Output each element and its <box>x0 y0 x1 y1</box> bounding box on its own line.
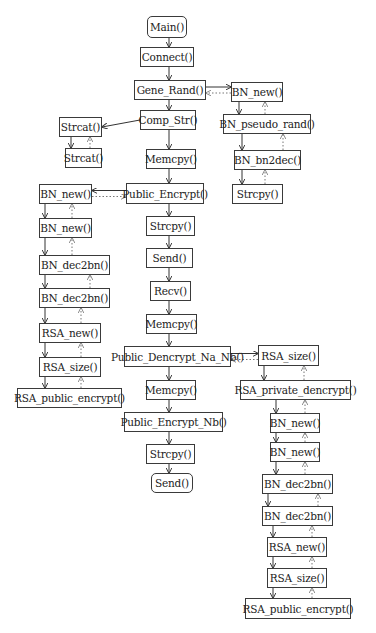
node-main: Main() <box>147 16 187 38</box>
node-bn-new-l2: BN_new() <box>39 218 92 238</box>
node-bn-new-r1: BN_new() <box>231 82 283 102</box>
node-rsa-new-l: RSA_new() <box>39 323 101 343</box>
node-rsa-size-r2: RSA_size() <box>267 568 327 588</box>
node-send-1: Send() <box>146 248 193 268</box>
node-strcpy-1: Strcpy() <box>146 216 195 236</box>
node-bn-bn2dec: BN_bn2dec() <box>234 150 301 170</box>
node-bn-new-r2: BN_new() <box>270 413 320 433</box>
node-memcpy-1: Memcpy() <box>146 149 196 169</box>
node-rsa-public-encrypt-l: RSA_public_encrypt() <box>17 388 122 408</box>
node-comp-str: Comp_Str() <box>140 110 196 130</box>
node-recv: Recv() <box>150 281 191 301</box>
edge-call-arrow <box>102 120 140 127</box>
node-connect: Connect() <box>140 47 194 67</box>
node-bn-new-l1: BN_new() <box>39 184 92 204</box>
node-gene-rand: Gene_Rand() <box>134 80 206 100</box>
node-public-encrypt-nb: Public_Encrypt_Nb() <box>124 412 223 432</box>
node-send-2: Send() <box>151 473 193 493</box>
node-strcat-1: Strcat() <box>59 117 102 137</box>
node-rsa-private-dencrypt: RSA_private_dencrypt() <box>240 380 351 400</box>
node-bn-dec2bn-l1: BN_dec2bn() <box>39 255 110 275</box>
node-public-encrypt: Public_Encrypt() <box>126 183 204 204</box>
node-memcpy-2: Memcpy() <box>146 314 197 334</box>
node-bn-dec2bn-l2: BN_dec2bn() <box>39 288 110 308</box>
node-bn-dec2bn-r1: BN_dec2bn() <box>262 474 333 494</box>
node-rsa-public-encrypt-r: RSA_public_encrypt() <box>245 598 351 619</box>
node-rsa-size-l: RSA_size() <box>39 357 101 377</box>
node-rsa-size-r1: RSA_size() <box>258 345 319 366</box>
node-memcpy-3: Memcpy() <box>146 380 196 400</box>
node-bn-dec2bn-r2: BN_dec2bn() <box>262 506 333 526</box>
node-bn-new-r3: BN_new() <box>270 442 320 462</box>
node-strcpy-r: Strcpy() <box>232 184 283 204</box>
node-rsa-new-r: RSA_new() <box>267 537 327 557</box>
node-bn-pseudo-rand: BN_pseudo_rand() <box>223 114 311 134</box>
node-strcat-2: Strcat() <box>65 148 102 168</box>
call-flow-diagram: Main()Connect()Gene_Rand()BN_new()Comp_S… <box>0 0 376 633</box>
node-strcpy-2: Strcpy() <box>146 444 195 464</box>
node-public-dencrypt-na-nb: Public_Dencrypt_Na_Nb() <box>124 346 231 367</box>
